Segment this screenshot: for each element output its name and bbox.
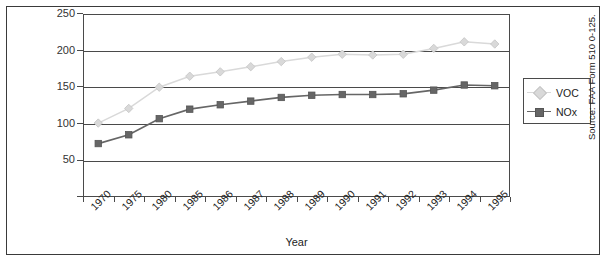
x-axis-tick-mark (236, 197, 237, 202)
y-axis-tick-mark (77, 50, 83, 51)
y-axis-tick-mark (77, 123, 83, 124)
x-axis-tick-mark (388, 197, 389, 202)
x-axis-tick-mark (327, 197, 328, 202)
x-axis-tick-mark (510, 197, 511, 202)
y-axis-tick-mark (77, 86, 83, 87)
legend-swatch-nox (526, 106, 552, 118)
x-axis-tick-mark (480, 197, 481, 202)
x-axis-tick-mark (419, 197, 420, 202)
x-axis-title: Year (83, 236, 510, 248)
chart-legend: VOC NOx (523, 78, 591, 124)
x-axis-tick-mark (83, 197, 84, 202)
x-axis-tick-mark (175, 197, 176, 202)
y-axis-tick-label: 200 (57, 45, 75, 56)
x-axis-tick-mark (358, 197, 359, 202)
square-marker-icon (535, 108, 544, 117)
y-axis-tick-label: 250 (57, 8, 75, 19)
legend-item-voc: VOC (526, 83, 590, 102)
gridline (84, 87, 509, 88)
gridline (84, 124, 509, 125)
x-axis-tick-mark (297, 197, 298, 202)
y-axis-tick-label: 100 (57, 118, 75, 129)
x-axis-tick-mark (205, 197, 206, 202)
gridline (84, 51, 509, 52)
x-axis-tick-mark (449, 197, 450, 202)
y-axis-tick-label: 50 (63, 154, 75, 165)
y-axis-tick-labels: 50100150200250 (45, 0, 75, 262)
x-axis-tick-mark (144, 197, 145, 202)
emissions-trend-chart-figure: Emissions (1,000 Short Tons) 50100150200… (0, 0, 607, 262)
legend-swatch-voc (526, 87, 552, 99)
x-axis-tick-mark (114, 197, 115, 202)
x-axis-tick-mark (266, 197, 267, 202)
diamond-marker-icon (533, 86, 547, 100)
source-note: Source: FAA Form 510 0-125. (586, 14, 597, 140)
legend-label-voc: VOC (552, 87, 579, 99)
legend-label-nox: NOx (552, 106, 577, 118)
legend-item-nox: NOx (526, 102, 590, 121)
gridline (84, 161, 509, 162)
plot-area (83, 14, 510, 197)
y-axis-tick-label: 150 (57, 81, 75, 92)
y-axis-tick-mark (77, 13, 83, 14)
y-axis-tick-mark (77, 160, 83, 161)
